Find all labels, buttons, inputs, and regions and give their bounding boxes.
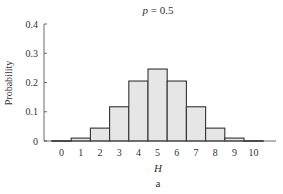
bar-8 [206, 128, 225, 141]
bars [52, 69, 263, 141]
y-tick-label: 0 [33, 136, 38, 147]
x-axis-label: H [153, 162, 163, 174]
bar-5 [148, 69, 167, 141]
x-tick-label: 4 [136, 147, 141, 158]
y-tick-label: 0.2 [26, 77, 39, 88]
figure-caption: a [156, 177, 161, 189]
y-tick-label: 0.3 [26, 48, 39, 59]
bar-7 [186, 107, 205, 141]
x-tick-label: 3 [117, 147, 122, 158]
y-tick-label: 0.1 [26, 106, 39, 117]
y-axis-label: Probability [3, 61, 14, 105]
x-tick-label: 10 [249, 147, 259, 158]
bar-6 [167, 81, 186, 141]
bar-9 [225, 138, 244, 141]
bar-3 [110, 107, 129, 141]
bar-2 [90, 128, 109, 141]
bar-4 [129, 81, 148, 141]
x-tick-label: 5 [155, 147, 160, 158]
y-tick-label: 0.4 [26, 19, 39, 30]
x-axis: 012345678910 [44, 141, 276, 158]
chart-title: p = 0.5 [142, 4, 174, 16]
x-tick-label: 9 [232, 147, 237, 158]
x-tick-label: 6 [174, 147, 179, 158]
y-axis: 00.10.20.30.4 [26, 19, 48, 147]
bar-1 [71, 138, 90, 141]
x-tick-label: 0 [59, 147, 64, 158]
x-tick-label: 8 [213, 147, 218, 158]
x-tick-label: 2 [98, 147, 103, 158]
x-tick-label: 1 [78, 147, 83, 158]
x-tick-label: 7 [194, 147, 199, 158]
binomial-bar-chart: p = 0.5 00.10.20.30.4 012345678910 Proba… [0, 0, 283, 194]
